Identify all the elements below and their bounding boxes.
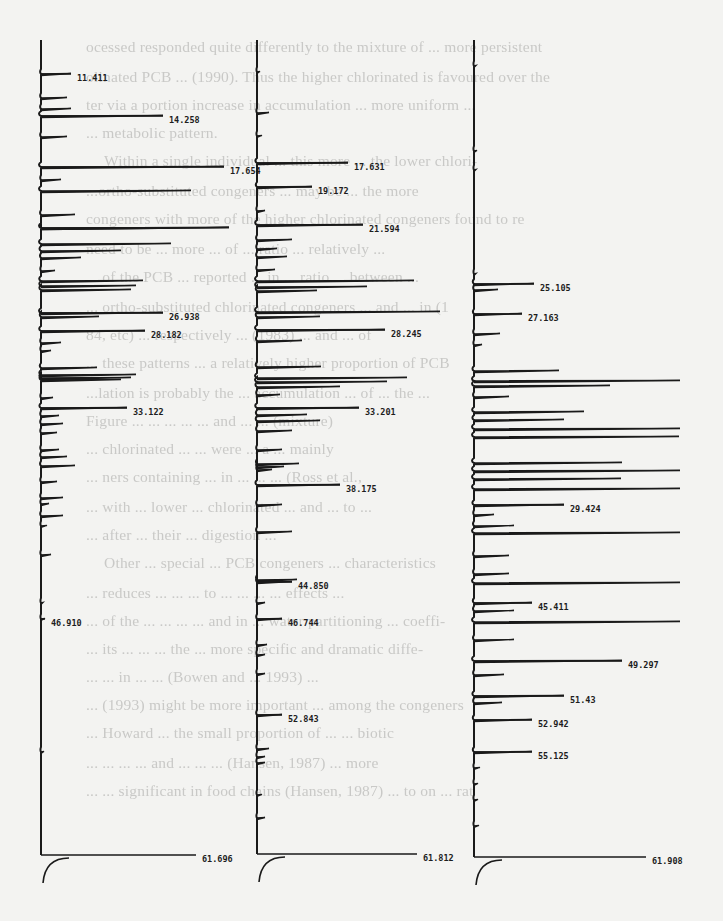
peak [41, 526, 47, 528]
peak [474, 170, 476, 172]
retention-time-label: 11.411 [77, 73, 108, 83]
solvent-tail-curve [259, 857, 285, 882]
peak [41, 180, 61, 182]
baseline-trace [39, 40, 41, 855]
peak [474, 334, 500, 336]
peak [257, 421, 320, 423]
peak [474, 420, 564, 422]
peak [41, 351, 51, 353]
peak [257, 674, 265, 676]
peak [257, 378, 407, 380]
peak [257, 317, 320, 319]
peak [257, 113, 269, 115]
peak [257, 341, 302, 343]
peak [474, 437, 679, 439]
peak [41, 251, 121, 253]
peak [257, 415, 307, 417]
peak [474, 463, 622, 465]
peak [41, 603, 43, 605]
peak [474, 471, 680, 473]
peak [257, 757, 265, 759]
retention-time-label: 33.122 [133, 407, 164, 417]
peak [257, 464, 299, 466]
peak [257, 470, 272, 472]
retention-time-label: 49.297 [628, 660, 659, 670]
peak [257, 249, 277, 251]
peak [474, 611, 514, 613]
peak [474, 533, 680, 535]
peak [257, 645, 267, 647]
peak [474, 66, 476, 68]
chromatogram-c: 25.10527.16329.42445.41149.29751.4352.94… [472, 40, 683, 885]
peak [257, 281, 414, 283]
peak [474, 412, 584, 414]
peak [41, 466, 75, 468]
peak [41, 398, 53, 400]
peak [474, 768, 480, 770]
chromatogram-b: 17.63119.17221.59428.24533.20138.17544.8… [255, 40, 454, 882]
peak [474, 675, 504, 677]
peak [257, 136, 262, 138]
solvent-tail-curve [43, 858, 69, 883]
peak [257, 387, 340, 389]
retention-time-label: 55.125 [538, 751, 569, 761]
peak [41, 375, 136, 377]
retention-time-label: 25.105 [540, 283, 571, 293]
peak [474, 826, 479, 828]
retention-time-label: 38.175 [346, 484, 377, 494]
retention-time-label: 51.43 [570, 695, 596, 705]
retention-time-label: 46.910 [51, 618, 82, 628]
peak [474, 574, 509, 576]
peak [41, 228, 229, 230]
retention-time-label: 29.424 [570, 504, 601, 514]
peak [41, 109, 71, 111]
peak [41, 317, 99, 319]
peak [474, 622, 680, 624]
peak [474, 640, 514, 642]
peak [41, 498, 63, 500]
peak [41, 137, 67, 139]
peak [41, 482, 57, 484]
peak [41, 457, 67, 459]
peak [41, 555, 51, 557]
peak [474, 151, 477, 153]
peak [474, 479, 621, 481]
peak [41, 343, 61, 345]
peak [41, 215, 75, 217]
retention-time-label: 21.594 [369, 224, 400, 234]
peak [257, 287, 367, 289]
peak [474, 429, 680, 431]
peak [474, 371, 559, 373]
peak [41, 516, 63, 518]
peak [41, 450, 59, 452]
peak [474, 784, 478, 786]
peak [257, 450, 282, 452]
peak [257, 382, 387, 384]
baseline-trace [472, 40, 474, 857]
peak [257, 312, 440, 314]
peak [41, 290, 131, 292]
peak [41, 281, 143, 283]
chromatogram-figure: 11.41114.25817.65426.93828.18233.12246.9… [0, 0, 723, 921]
retention-time-label: 26.938 [169, 312, 200, 322]
peak [41, 433, 57, 435]
peak [41, 504, 49, 506]
peak [257, 211, 265, 213]
peak [257, 367, 321, 369]
peak [257, 763, 265, 765]
retention-time-label: 27.163 [528, 313, 559, 323]
solvent-tail-curve [476, 860, 502, 885]
baseline-trace [255, 40, 257, 854]
peak [41, 98, 67, 100]
peak [41, 752, 44, 754]
peak [474, 290, 498, 292]
retention-time-label: 45.411 [538, 602, 569, 612]
peak [41, 191, 191, 193]
peak [257, 603, 265, 605]
retention-time-label: 14.258 [169, 115, 200, 125]
peak [41, 380, 121, 382]
peak [257, 270, 275, 272]
peak [474, 386, 610, 388]
peak [257, 749, 269, 751]
peak [257, 795, 262, 797]
